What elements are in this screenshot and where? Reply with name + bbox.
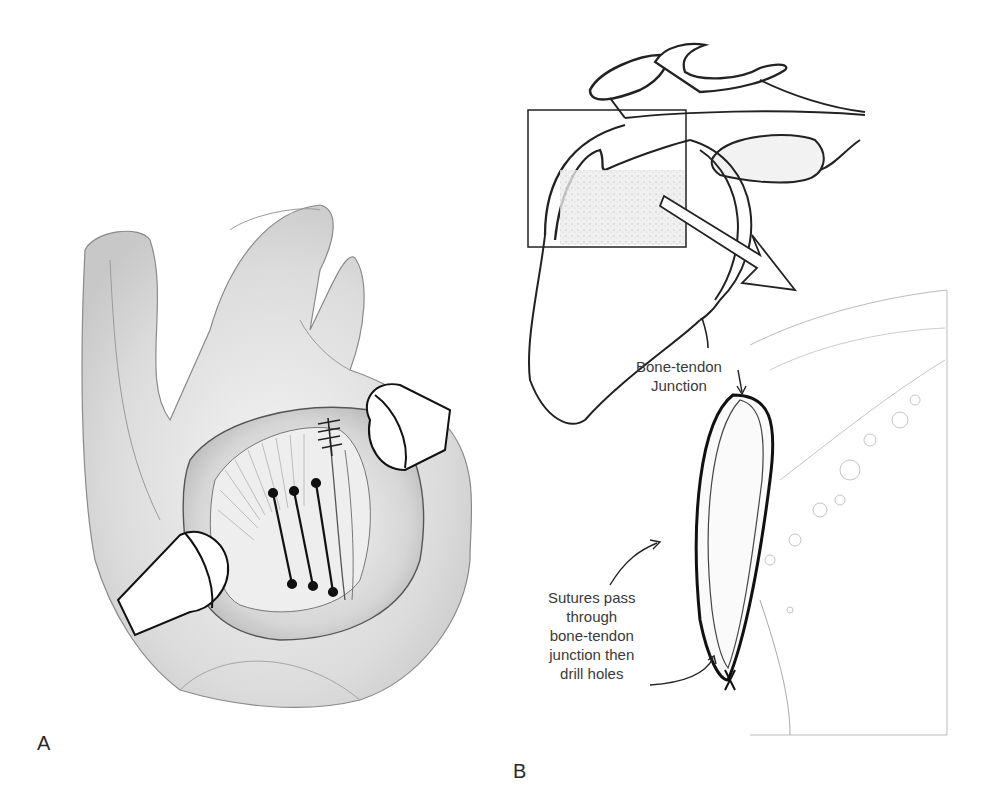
label-line: junction then xyxy=(548,645,636,664)
label-line: Junction xyxy=(636,376,722,395)
label-line: bone-tendon xyxy=(548,626,636,645)
label-line: through xyxy=(548,607,636,626)
label-line: drill holes xyxy=(548,664,636,683)
label-line: Sutures pass xyxy=(548,588,636,607)
bone-tendon-diagram xyxy=(0,0,981,809)
bone-tendon-junction-label: Bone-tendon Junction xyxy=(636,357,722,395)
panel-label-b: B xyxy=(513,760,526,783)
label-line: Bone-tendon xyxy=(636,357,722,376)
panel-b-illustration: Bone-tendon Junction Sutures pass throug… xyxy=(0,0,981,809)
sutures-label: Sutures pass through bone-tendon junctio… xyxy=(548,588,636,683)
